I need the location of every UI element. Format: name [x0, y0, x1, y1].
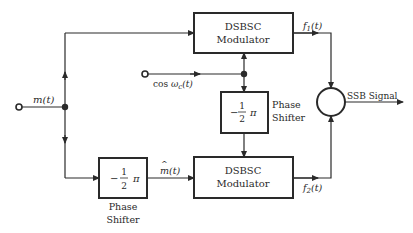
f2-line [293, 116, 331, 178]
message-shifter-caption1: Phase [109, 201, 138, 212]
carrier-shifter-caption1: Phase [272, 99, 301, 110]
bottom-modulator-line1: DSBSC [225, 165, 262, 176]
summing-junction [317, 88, 345, 116]
f2-label: f2(t) [302, 182, 323, 195]
carrier-input-terminal [142, 71, 148, 77]
message-junction-dot [62, 104, 68, 110]
message-shifter-pi: π [132, 173, 140, 184]
carrier-shifter-minus: − [230, 107, 238, 118]
mhat-hat: ^ [161, 159, 168, 168]
carrier-label: cos ωc(t) [153, 79, 193, 91]
top-modulator-line2: Modulator [216, 34, 269, 45]
message-shifter-caption2: Shifter [106, 214, 140, 225]
bottom-modulator-line2: Modulator [216, 178, 269, 189]
carrier-junction-dot [241, 71, 247, 77]
f1-line [293, 33, 331, 88]
ssb-output-label: SSB Signal [347, 91, 398, 101]
message-shifter-num: 1 [121, 167, 127, 177]
ssb-block-diagram: DSBSC Modulator DSBSC Modulator − 1 2 π … [0, 0, 413, 233]
carrier-phase-shifter-block [221, 92, 268, 133]
message-shifter-minus: − [110, 173, 118, 184]
f1-label: f1(t) [302, 20, 323, 33]
carrier-shifter-caption2: Shifter [272, 112, 306, 123]
carrier-shifter-num: 1 [239, 101, 245, 111]
top-modulator-line1: DSBSC [225, 21, 262, 32]
top-dsbsc-modulator-block [194, 13, 293, 53]
message-label: m(t) [33, 94, 54, 105]
message-input-terminal [16, 104, 22, 110]
message-shifter-den: 2 [121, 181, 127, 191]
carrier-shifter-pi: π [249, 107, 257, 118]
carrier-shifter-den: 2 [239, 114, 245, 124]
